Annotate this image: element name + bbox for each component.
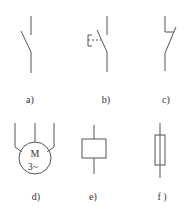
label-e: e) <box>89 191 97 203</box>
label-b: b) <box>102 94 110 106</box>
motor-phase: 3~ <box>28 161 39 172</box>
label-c: c) <box>162 94 170 106</box>
symbol-b-pushbutton-switch <box>88 16 107 72</box>
symbol-e-coil <box>82 125 106 174</box>
symbol-c-latch-switch <box>165 16 176 71</box>
symbol-d-motor: M 3~ <box>15 123 54 174</box>
label-f: f ) <box>157 191 166 203</box>
symbols-diagram: a) b) c) M 3~ d) e) f ) <box>0 0 188 213</box>
label-a: a) <box>26 94 34 106</box>
label-d: d) <box>32 191 40 203</box>
symbol-f-fuse <box>155 123 165 178</box>
symbol-a-switch <box>21 16 31 73</box>
motor-letter: M <box>31 148 40 159</box>
